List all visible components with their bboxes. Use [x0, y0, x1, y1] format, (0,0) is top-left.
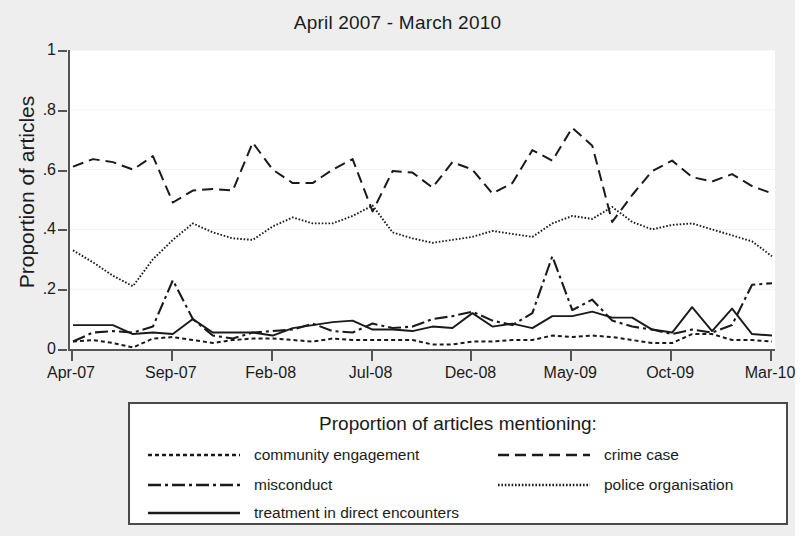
gridlines	[70, 50, 775, 289]
legend-line-swatch	[498, 448, 590, 462]
y-tick-label: .4	[12, 220, 56, 238]
x-tick-label: Jul-08	[316, 364, 426, 382]
y-tick-label: .2	[12, 280, 56, 298]
series-line	[73, 205, 772, 286]
x-tick-mark	[71, 351, 73, 361]
legend-title: Proportion of articles mentioning:	[130, 413, 786, 435]
x-tick-label: Dec-08	[415, 364, 525, 382]
chart-title: April 2007 - March 2010	[0, 12, 795, 34]
legend-label: police organisation	[604, 476, 733, 494]
y-axis-title: Proportion of articles	[15, 32, 39, 352]
legend-line-swatch	[148, 478, 240, 492]
legend-label: community engagement	[254, 446, 419, 464]
y-tick-mark	[58, 170, 67, 172]
legend-line-swatch	[148, 506, 240, 520]
y-tick-label: .6	[12, 161, 56, 179]
x-tick-mark	[470, 351, 472, 361]
x-tick-mark	[670, 351, 672, 361]
x-tick-mark	[371, 351, 373, 361]
x-tick-mark	[271, 351, 273, 361]
legend-entry: police organisation	[498, 476, 733, 494]
series-line	[73, 307, 772, 335]
x-tick-mark	[171, 351, 173, 361]
legend-line-swatch	[148, 448, 240, 462]
legend-label: treatment in direct encounters	[254, 504, 459, 522]
y-tick-mark	[58, 289, 67, 291]
plot-area: Proportion of articles	[68, 50, 775, 349]
legend-label: misconduct	[254, 476, 332, 494]
legend-entry: community engagement	[148, 446, 419, 464]
x-tick-label: Sep-07	[116, 364, 226, 382]
x-tick-label: Mar-10	[715, 364, 800, 382]
x-tick-mark	[570, 351, 572, 361]
x-tick-label: May-09	[515, 364, 625, 382]
legend-entry: misconduct	[148, 476, 332, 494]
y-tick-label: 1	[12, 41, 56, 59]
legend-label: crime case	[604, 446, 679, 464]
legend: Proportion of articles mentioning: commu…	[128, 402, 788, 525]
x-tick-label: Oct-09	[615, 364, 725, 382]
y-tick-label: .8	[12, 101, 56, 119]
y-tick-label: 0	[12, 340, 56, 358]
x-axis-line	[68, 349, 775, 351]
legend-line-swatch	[498, 478, 590, 492]
x-tick-label: Apr-07	[16, 364, 126, 382]
y-tick-mark	[58, 50, 67, 52]
series-lines	[73, 128, 772, 348]
series-line	[73, 128, 772, 222]
legend-entry: crime case	[498, 446, 679, 464]
x-tick-mark	[770, 351, 772, 361]
y-tick-mark	[58, 349, 67, 351]
legend-entry: treatment in direct encounters	[148, 504, 459, 522]
series-line	[73, 334, 772, 347]
y-tick-mark	[58, 229, 67, 231]
y-tick-mark	[58, 110, 67, 112]
plot-svg	[70, 50, 775, 349]
x-tick-label: Feb-08	[216, 364, 326, 382]
